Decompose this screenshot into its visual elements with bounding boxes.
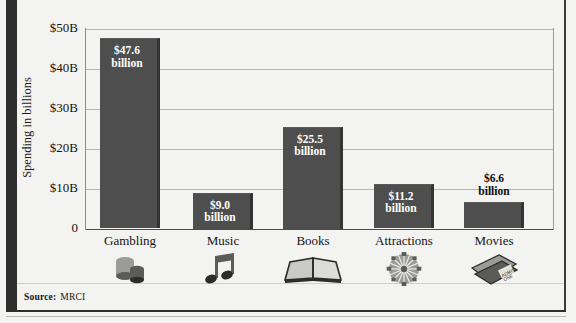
bar-music[interactable]: $9.0billion (193, 193, 253, 229)
bar-value-label: $6.6billion (449, 172, 539, 198)
x-axis-line (86, 229, 554, 230)
bar-value-label: $25.5billion (283, 133, 337, 158)
ferris-wheel-icon (364, 252, 444, 286)
left-decorative-band (6, 0, 17, 312)
poker-chips-icon (90, 252, 170, 286)
y-tick-label: $20B (0, 140, 78, 156)
movie-tickets-icon: ADMIT ONE (454, 252, 534, 286)
bar-books[interactable]: $25.5billion (283, 127, 343, 229)
x-axis-label-movies: Movies (439, 233, 549, 249)
frame-bottom-hairline (6, 316, 566, 317)
frame-right-border (564, 0, 566, 312)
y-tick-label: $40B (0, 60, 78, 76)
music-note-icon (183, 252, 263, 286)
bar-value-label: $47.6billion (100, 44, 154, 69)
y-axis-line (85, 28, 86, 230)
y-tick-label: 0 (0, 220, 78, 236)
bar-attractions[interactable]: $11.2billion (374, 184, 434, 229)
gridline-50 (86, 29, 554, 30)
bar-movies[interactable] (464, 202, 524, 228)
frame-bottom-border (6, 310, 566, 312)
open-book-icon (273, 252, 353, 286)
bar-value-label: $9.0billion (193, 199, 247, 224)
source-label: Source: (24, 292, 56, 302)
y-tick-label: $10B (0, 180, 78, 196)
plot-right-edge (553, 28, 554, 230)
chart-figure: Spending in billions $50B$40B$30B$20B$10… (0, 0, 576, 323)
y-tick-label: $30B (0, 100, 78, 116)
y-tick-label: $50B (0, 20, 78, 36)
bar-gambling[interactable]: $47.6billion (100, 38, 160, 228)
source-note: Source:MRCI (24, 292, 85, 302)
bar-value-label: $11.2billion (374, 190, 428, 215)
source-value: MRCI (56, 292, 85, 302)
